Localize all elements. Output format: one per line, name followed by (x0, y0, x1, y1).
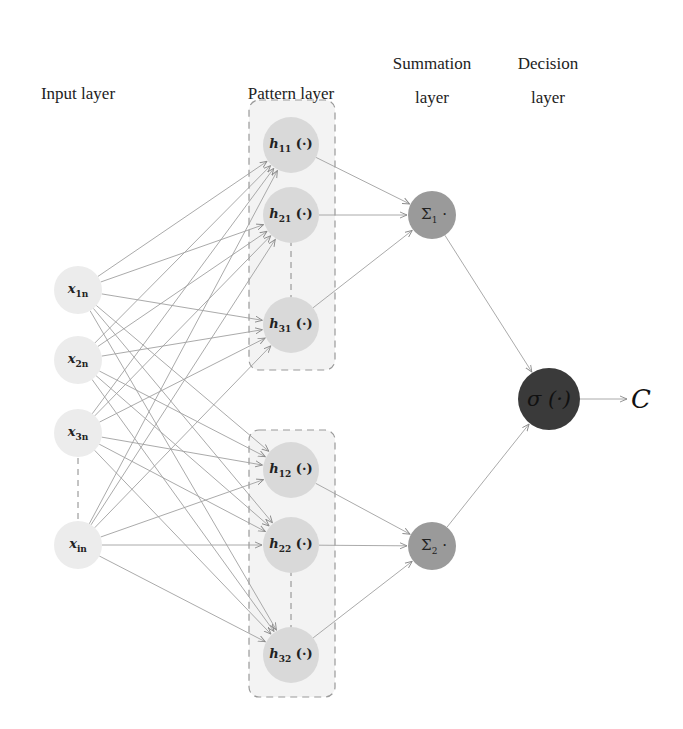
header-summation-layer: Summation layer (380, 52, 484, 110)
input-node-label-2: x3n (68, 424, 89, 442)
edge-input-2-pattern-1 (95, 236, 271, 416)
header-decision-layer: Decision layer (500, 52, 596, 110)
input-node-label-1: x2n (68, 351, 89, 369)
edge-input-3-pattern-1 (91, 239, 275, 524)
edge-pattern-4-sum (319, 545, 407, 546)
header-pattern-layer: Pattern layer (228, 82, 354, 106)
edge-input-2-pattern-3 (102, 437, 263, 465)
pattern-node-label-0: h11 (·) (269, 136, 312, 154)
summation-node-label-1: Σ2 · (421, 536, 447, 556)
summation-node-label-0: Σ1 · (421, 205, 447, 225)
edge-input-3-pattern-2 (95, 346, 271, 528)
edge-input-1-pattern-0 (95, 166, 271, 343)
pnn-diagram: Input layer Pattern layer Summation laye… (0, 0, 683, 729)
edge-input-1-pattern-1 (98, 231, 267, 346)
header-decision-line1: Decision (500, 52, 596, 76)
edge-input-0-pattern-0 (98, 161, 267, 276)
edge-input-0-pattern-1 (101, 225, 264, 282)
header-input-layer: Input layer (18, 82, 138, 106)
header-decision-line2: layer (500, 86, 596, 110)
pattern-node-label-5: h32 (·) (269, 646, 312, 664)
output-label: C (631, 384, 651, 414)
edge-input-0-pattern-3 (96, 305, 269, 451)
header-summation-line1: Summation (380, 52, 484, 76)
pattern-node-label-2: h31 (·) (269, 316, 312, 334)
edge-sum-0-decision (445, 235, 532, 372)
pattern-node-label-4: h22 (·) (269, 536, 312, 554)
edge-input-0-pattern-4 (93, 308, 272, 522)
edge-input-2-pattern-2 (99, 338, 265, 422)
edge-input-2-pattern-0 (92, 168, 273, 413)
pattern-node-label-1: h21 (·) (269, 206, 312, 224)
header-summation-line2: layer (380, 86, 484, 110)
edge-input-1-pattern-5 (92, 379, 274, 631)
edge-sum-1-decision (447, 424, 529, 527)
input-node-label-0: x1n (68, 281, 89, 299)
pattern-node-label-3: h12 (·) (269, 461, 312, 479)
edge-input-0-pattern-2 (102, 294, 263, 320)
decision-node-label: σ (·) (527, 387, 571, 411)
input-node-label-3: xin (69, 536, 87, 554)
